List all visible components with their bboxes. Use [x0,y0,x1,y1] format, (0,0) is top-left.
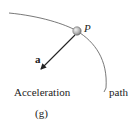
acceleration-diagram: P a Acceleration path (g) [0,0,136,129]
path-label: path [109,87,128,98]
acceleration-vector-arrow [41,35,75,69]
point-label: P [84,23,91,34]
diagram-graphics [0,0,136,129]
particle-icon [73,27,81,35]
caption-label: Acceleration [14,87,70,98]
vector-label: a [35,54,41,65]
figure-label: (g) [35,108,48,119]
